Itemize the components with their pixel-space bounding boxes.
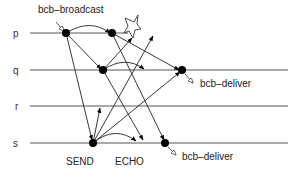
event-dot-s-send [89,139,97,147]
send-p-to-s [66,33,92,140]
send-s-to-p [93,36,153,143]
crash-star-icon [124,15,141,38]
event-dot-p-broadcast [62,29,70,37]
event-dot-q-echo [99,66,107,74]
deliver-indicator-s [168,147,176,155]
event-dot-p-echo [108,29,116,37]
process-label-s: s [13,138,18,149]
process-label-p: p [13,28,19,39]
broadcast-label: bcb–broadcast [38,4,104,15]
send-p-to-q [66,33,101,69]
event-dot-q-deliver [178,66,186,74]
echo-arc-s-to-s [93,133,136,143]
phase-label-send: SEND [66,156,94,167]
broadcast-indicator [56,22,64,31]
echo-p-to-s [112,33,164,140]
deliver-label-s: bcb–deliver [182,151,234,162]
event-dot-s-deliver [161,139,169,147]
process-label-r: r [15,101,19,112]
phase-label-echo: ECHO [115,156,144,167]
send-arc-p-to-p [66,26,110,34]
deliver-indicator-q [185,74,193,83]
broadcast-diagram: p q r s bcb–broadcast bcb–deliver bcb–de… [0,0,299,176]
echo-p-to-q [112,33,179,70]
deliver-label-q: bcb–deliver [200,78,252,89]
process-label-q: q [13,65,19,76]
